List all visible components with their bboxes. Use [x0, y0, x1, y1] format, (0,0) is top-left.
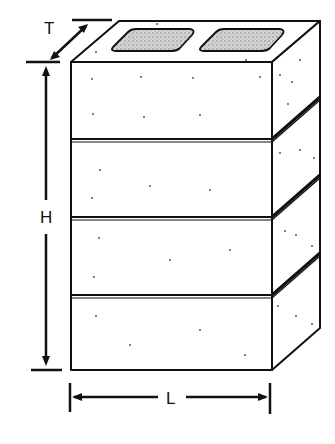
- height-label: H: [40, 208, 52, 227]
- thickness-label: T: [44, 19, 54, 38]
- length-label: L: [166, 389, 175, 408]
- masonry-block-diagram: T H L: [0, 0, 335, 444]
